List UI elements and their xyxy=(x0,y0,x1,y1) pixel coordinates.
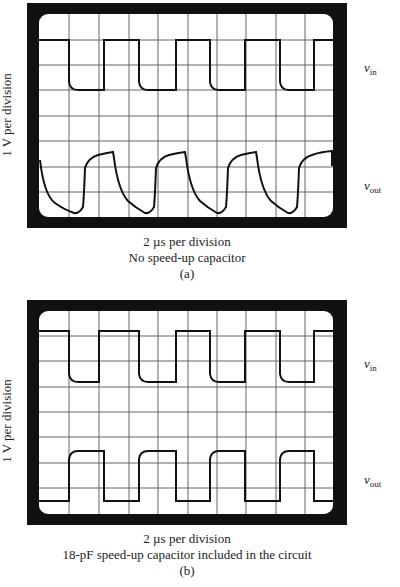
signal-label-vout-a: vout xyxy=(364,178,381,195)
oscilloscope-screen-a xyxy=(0,0,400,230)
caption-text-a: No speed-up capacitor xyxy=(0,250,374,266)
y-axis-label-b: 1 V per division xyxy=(0,371,15,471)
caption-a: 2 µs per division No speed-up capacitor … xyxy=(0,234,374,282)
signal-label-vin-b: vin xyxy=(364,356,377,373)
caption-tag-b: (b) xyxy=(0,563,374,579)
x-axis-label-a: 2 µs per division xyxy=(0,234,374,250)
oscilloscope-screen-b xyxy=(0,297,400,527)
caption-text-b: 18-pF speed-up capacitor included in the… xyxy=(0,547,374,563)
caption-tag-a: (a) xyxy=(0,266,374,282)
caption-b: 2 µs per division 18-pF speed-up capacit… xyxy=(0,531,374,579)
scope-panel-a: 1 V per division vin vout 2 µs per divis… xyxy=(0,0,400,290)
x-axis-label-b: 2 µs per division xyxy=(0,531,374,547)
signal-label-vin-a: vin xyxy=(364,60,377,77)
signal-label-vout-b: vout xyxy=(364,472,381,489)
scope-panel-b: 1 V per division vin vout 2 µs per divis… xyxy=(0,297,400,587)
y-axis-label-a: 1 V per division xyxy=(0,65,15,165)
